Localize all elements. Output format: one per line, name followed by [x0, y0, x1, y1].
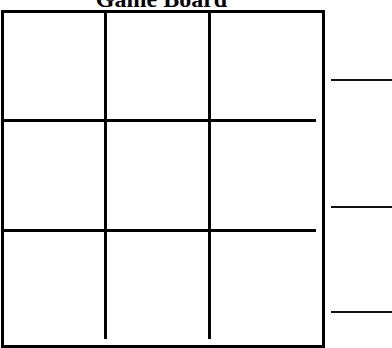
answer-line-row-3[interactable]	[331, 311, 392, 313]
cell-r1-c2[interactable]	[107, 13, 211, 122]
cell-r1-c1[interactable]	[4, 13, 107, 122]
cell-r2-c2[interactable]	[107, 122, 211, 232]
answer-line-row-1[interactable]	[331, 79, 392, 81]
cell-r2-c1[interactable]	[4, 122, 107, 232]
cell-r3-c3[interactable]	[211, 232, 316, 339]
cell-r2-c3[interactable]	[211, 122, 316, 232]
cell-r3-c1[interactable]	[4, 232, 107, 339]
cell-r1-c3[interactable]	[211, 13, 316, 122]
answer-line-row-2[interactable]	[331, 206, 392, 208]
cell-r3-c2[interactable]	[107, 232, 211, 339]
game-board-grid	[1, 10, 325, 348]
